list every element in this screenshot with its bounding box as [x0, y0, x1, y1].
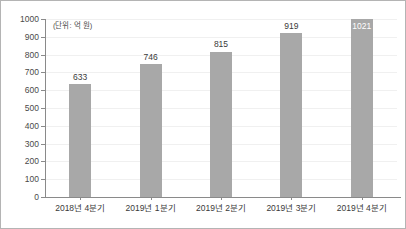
- x-axis-tick-mark: [362, 197, 363, 200]
- bar-value-label: 746: [143, 53, 157, 62]
- x-axis-tick-label: 2019년 1분기: [115, 204, 185, 213]
- bar-value-label: 633: [73, 73, 87, 82]
- x-axis-line: [45, 197, 401, 198]
- bar-value-label: 1021: [352, 22, 371, 31]
- bar: [351, 19, 373, 197]
- bar: [140, 64, 162, 197]
- bar-group: 919: [256, 19, 326, 197]
- bar-value-label: 815: [214, 40, 228, 49]
- x-axis-tick-mark: [151, 197, 152, 200]
- bar-group: 633: [45, 19, 115, 197]
- x-axis-tick-mark: [291, 197, 292, 200]
- x-axis-tick-label: 2019년 3분기: [256, 204, 326, 213]
- bar-value-label: 919: [284, 22, 298, 31]
- bar: [69, 84, 91, 197]
- bar: [210, 52, 232, 197]
- bar-group: 746: [115, 19, 185, 197]
- x-axis-tick-label: 2019년 4분기: [327, 204, 397, 213]
- x-axis-tick-label: 2018년 4분기: [45, 204, 115, 213]
- bar-group: 815: [186, 19, 256, 197]
- x-axis-tick-label: 2019년 2분기: [186, 204, 256, 213]
- bar-chart-figure: 10009008007006005004003002001000 (단위: 억 …: [0, 0, 406, 229]
- x-axis-tick-mark: [80, 197, 81, 200]
- y-axis-tick-marks: [1, 19, 45, 197]
- bar: [280, 33, 302, 197]
- x-axis-tick-labels: 2018년 4분기2019년 1분기2019년 2분기2019년 3분기2019…: [45, 204, 397, 222]
- x-axis-tick-mark: [221, 197, 222, 200]
- plot-area: 6337468159191021: [45, 19, 397, 197]
- bar-group: 1021: [327, 19, 397, 197]
